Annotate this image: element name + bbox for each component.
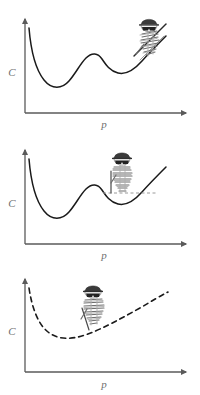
- y-axis-label: C: [8, 66, 16, 78]
- skier-character: [134, 19, 166, 60]
- cap-icon: [113, 153, 132, 158]
- y-axis-label: C: [8, 197, 16, 209]
- panel-nonconvex-descending: C p: [0, 0, 200, 132]
- skier-character: [81, 286, 104, 330]
- character-body: [84, 299, 104, 324]
- skier-character: [111, 153, 132, 193]
- cap-icon: [140, 19, 159, 24]
- character-body: [113, 167, 132, 191]
- character-arm: [81, 309, 87, 319]
- cost-curve: [29, 159, 166, 218]
- x-axis-label: p: [100, 378, 107, 390]
- cap-icon: [84, 286, 103, 291]
- cap-brim-icon: [139, 24, 159, 25]
- x-axis-label: p: [100, 118, 107, 130]
- cost-landscape-figure: C p: [0, 0, 200, 395]
- panel-convex: C p: [0, 262, 200, 394]
- panel-nonconvex-trapped: C p: [0, 131, 200, 263]
- cap-brim-icon: [83, 291, 103, 292]
- x-axis-label: p: [100, 249, 107, 261]
- cap-brim-icon: [112, 158, 132, 159]
- y-axis-label: C: [8, 325, 16, 337]
